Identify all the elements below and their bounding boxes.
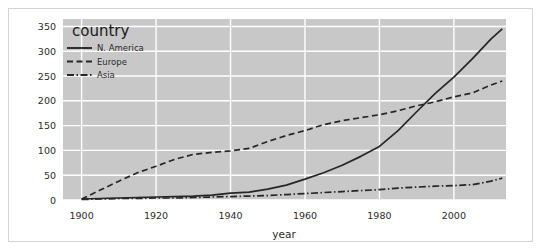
line-chart-plot: 190019201940196019802000 050100150200250… <box>0 0 541 250</box>
legend-label: N. America <box>97 43 144 53</box>
x-axis-title: year <box>272 228 296 240</box>
x-tick-label: 2000 <box>442 210 466 221</box>
x-tick-label: 1980 <box>367 210 391 221</box>
y-axis-tick-labels: 050100150200250300350 <box>38 21 56 206</box>
y-tick-label: 250 <box>38 71 56 82</box>
x-tick-label: 1940 <box>218 210 242 221</box>
x-tick-label: 1920 <box>144 210 168 221</box>
y-tick-label: 350 <box>38 21 56 32</box>
y-tick-label: 50 <box>44 170 56 181</box>
legend-label: Asia <box>97 70 115 80</box>
legend-title: country <box>72 22 129 40</box>
x-axis-tick-labels: 190019201940196019802000 <box>70 210 466 221</box>
y-tick-label: 100 <box>38 145 56 156</box>
x-tick-label: 1900 <box>70 210 94 221</box>
y-tick-label: 0 <box>50 195 56 206</box>
legend-label: Europe <box>97 57 127 67</box>
chart-figure: 190019201940196019802000 050100150200250… <box>0 0 541 250</box>
y-tick-label: 150 <box>38 120 56 131</box>
y-tick-label: 200 <box>38 95 56 106</box>
x-tick-label: 1960 <box>293 210 317 221</box>
y-tick-label: 300 <box>38 46 56 57</box>
